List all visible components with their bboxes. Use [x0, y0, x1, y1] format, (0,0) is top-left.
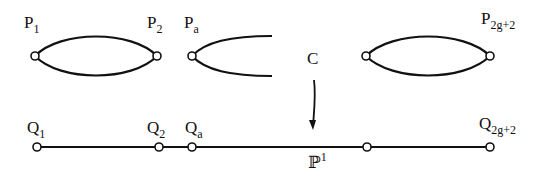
label-p1: P1 — [24, 13, 39, 36]
ellipse-p1-p2 — [31, 37, 161, 76]
ellipse-last — [362, 37, 494, 76]
label-qa: Qa — [185, 118, 203, 141]
point-q2 — [155, 143, 163, 151]
label-p2: P2 — [147, 13, 162, 36]
label-curve-c: C — [307, 49, 318, 68]
label-p2g2: P2g+2 — [481, 9, 515, 32]
point-unlabeled-top — [362, 52, 370, 60]
label-q2: Q2 — [147, 118, 165, 141]
point-p2 — [153, 52, 161, 60]
label-q2g2: Q2g+2 — [479, 114, 516, 137]
point-unlabeled-bottom — [363, 143, 371, 151]
label-p1-line: ℙ1 — [308, 150, 327, 172]
open-branch-pa — [188, 36, 272, 76]
point-qa — [188, 143, 196, 151]
label-pa: Pa — [184, 13, 199, 36]
point-p1 — [31, 52, 39, 60]
label-q1: Q1 — [27, 118, 45, 141]
point-q2g2 — [486, 143, 494, 151]
projection-arrow — [309, 80, 316, 130]
point-pa — [188, 52, 196, 60]
projective-line — [33, 143, 494, 151]
point-p2g2 — [486, 52, 494, 60]
hyperelliptic-cover-diagram: P1 P2 Pa P2g+2 C Q1 Q2 Qa Q2g+2 ℙ1 — [0, 0, 540, 179]
point-q1 — [33, 143, 41, 151]
